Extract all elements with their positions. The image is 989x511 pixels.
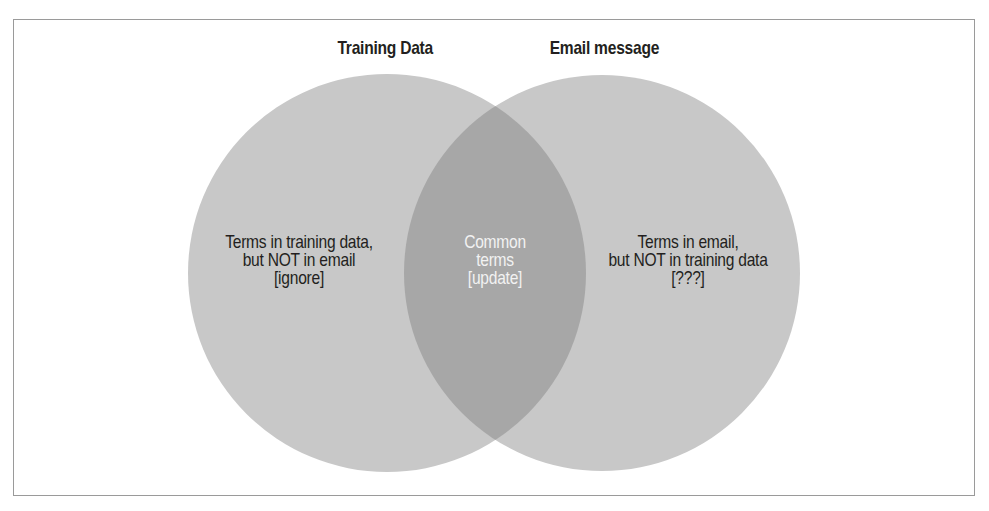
common-terms-line-3: [update] — [454, 269, 536, 287]
email-message-title: Email message — [550, 37, 657, 59]
training-data-title: Training Data — [337, 37, 432, 59]
training-only-line-3: [ignore] — [217, 269, 381, 287]
training-only-label: Terms in training data, but NOT in email… — [217, 233, 381, 287]
email-only-line-3: [???] — [590, 269, 787, 287]
common-terms-label: Common terms [update] — [454, 233, 536, 287]
email-only-label: Terms in email, but NOT in training data… — [590, 233, 787, 287]
